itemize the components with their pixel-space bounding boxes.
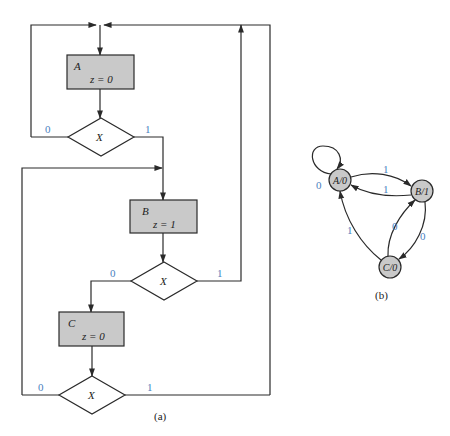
state-box-b: B z = 1 <box>130 200 197 233</box>
state-c-output: z = 0 <box>81 330 105 342</box>
decision-2-label-0: 0 <box>110 267 116 279</box>
decision-3-label-0: 0 <box>38 381 44 393</box>
state-node-a-label: A/0 <box>332 175 347 186</box>
flowchart: A z = 0 X 0 1 B z = 1 X 0 1 <box>22 25 270 423</box>
state-b-name: B <box>142 205 149 217</box>
edge-b-a <box>351 185 411 196</box>
state-b-output: z = 1 <box>152 218 176 230</box>
state-box-a: A z = 0 <box>67 55 134 89</box>
diagram-canvas: A z = 0 X 0 1 B z = 1 X 0 1 <box>0 0 450 436</box>
decision-2-input: X <box>159 275 168 287</box>
state-a-name: A <box>73 60 81 72</box>
edge-a-b-label: 1 <box>383 163 389 175</box>
decision-3: X 0 1 <box>22 376 270 414</box>
decision-1-label-0: 0 <box>45 123 51 135</box>
decision-3-label-1: 1 <box>147 381 153 393</box>
edge-b-c-label: 0 <box>420 230 426 242</box>
state-node-b-label: B/1 <box>415 186 429 197</box>
decision-1: X 0 1 <box>31 118 163 200</box>
edge-a-b <box>351 174 411 186</box>
edge-c-b-label: 0 <box>392 220 398 232</box>
caption-a: (a) <box>154 410 167 423</box>
caption-b: (b) <box>375 289 388 302</box>
edge-c-a-label: 1 <box>347 224 353 236</box>
edge-a-a-label: 0 <box>316 179 322 191</box>
edge-b-a-label: 1 <box>383 183 389 195</box>
state-node-c: C/0 <box>379 256 401 278</box>
state-box-c: C z = 0 <box>59 312 124 346</box>
state-a-output: z = 0 <box>89 73 113 85</box>
state-diagram: 0 1 1 0 0 1 A/0 B/1 C/0 (b) <box>312 146 433 302</box>
state-c-name: C <box>68 317 76 329</box>
decision-1-input: X <box>95 131 104 143</box>
state-node-a: A/0 <box>329 169 351 191</box>
state-node-c-label: C/0 <box>383 262 397 273</box>
decision-3-input: X <box>87 389 96 401</box>
decision-1-label-1: 1 <box>145 123 151 135</box>
decision-2-label-1: 1 <box>217 267 223 279</box>
state-node-b: B/1 <box>411 180 433 202</box>
